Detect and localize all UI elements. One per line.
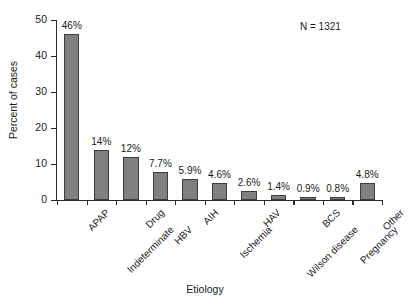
bar — [330, 197, 345, 200]
bar — [94, 150, 109, 200]
x-axis-title: Etiology — [0, 283, 410, 295]
bar — [182, 179, 197, 200]
y-axis-title: Percent of cases — [2, 0, 24, 200]
bar-value-label: 0.9% — [297, 183, 320, 194]
y-axis-line — [56, 20, 57, 200]
x-axis-tick — [264, 200, 265, 205]
category-label: Indeterminate — [125, 224, 176, 275]
bar-value-label: 4.6% — [208, 169, 231, 180]
x-axis-tick — [146, 200, 147, 205]
bar — [241, 191, 256, 200]
x-axis-tick — [293, 200, 294, 205]
bar-value-label: 0.8% — [326, 183, 349, 194]
x-axis-tick — [323, 200, 324, 205]
y-axis-tick-label: 40 — [35, 49, 47, 61]
category-label: APAP — [85, 207, 111, 233]
y-axis-tick: 20 — [51, 128, 56, 129]
bar-value-label: 14% — [91, 136, 111, 147]
bar-value-label: 7.7% — [149, 158, 172, 169]
category-label: Ischemia — [237, 224, 273, 260]
y-axis-tick: 10 — [51, 164, 56, 165]
plot-area: 01020304050 46%14%12%7.7%5.9%4.6%2.6%1.4… — [57, 20, 382, 200]
x-axis-tick — [205, 200, 206, 205]
x-axis-line — [56, 200, 382, 201]
bar — [212, 183, 227, 200]
bar — [360, 183, 375, 200]
y-axis-tick-label: 30 — [35, 85, 47, 97]
x-axis-tick — [175, 200, 176, 205]
bar-value-label: 1.4% — [267, 181, 290, 192]
y-axis-tick: 0 — [51, 200, 56, 201]
x-axis-tick — [382, 200, 383, 205]
y-axis-tick-label: 50 — [35, 13, 47, 25]
bar-chart-figure: Percent of cases N = 1321 01020304050 46… — [0, 0, 410, 307]
bar-value-label: 2.6% — [238, 177, 261, 188]
y-axis-tick-label: 20 — [35, 121, 47, 133]
category-label: AIH — [201, 207, 221, 227]
category-label: BCS — [320, 207, 342, 229]
bar — [123, 157, 138, 200]
x-axis-tick — [57, 200, 58, 205]
bar-value-label: 4.8% — [356, 169, 379, 180]
category-label: Wilson disease — [304, 224, 359, 279]
category-label: Pregnancy — [358, 224, 400, 266]
x-axis-tick — [352, 200, 353, 205]
x-axis-tick — [234, 200, 235, 205]
x-axis-tick — [87, 200, 88, 205]
y-axis-tick-label: 10 — [35, 157, 47, 169]
bar-value-label: 12% — [121, 143, 141, 154]
y-axis-tick: 30 — [51, 92, 56, 93]
bar — [153, 172, 168, 200]
bar — [300, 197, 315, 200]
y-axis-tick: 50 — [51, 20, 56, 21]
category-label: Drug — [143, 207, 166, 230]
x-axis-tick — [116, 200, 117, 205]
bar-value-label: 46% — [62, 20, 82, 31]
y-axis-tick: 40 — [51, 56, 56, 57]
y-axis-title-text: Percent of cases — [7, 61, 19, 139]
bar — [271, 195, 286, 200]
y-axis-tick-label: 0 — [41, 193, 47, 205]
category-label: HBV — [172, 224, 194, 246]
bar-value-label: 5.9% — [179, 165, 202, 176]
bar — [64, 34, 79, 200]
